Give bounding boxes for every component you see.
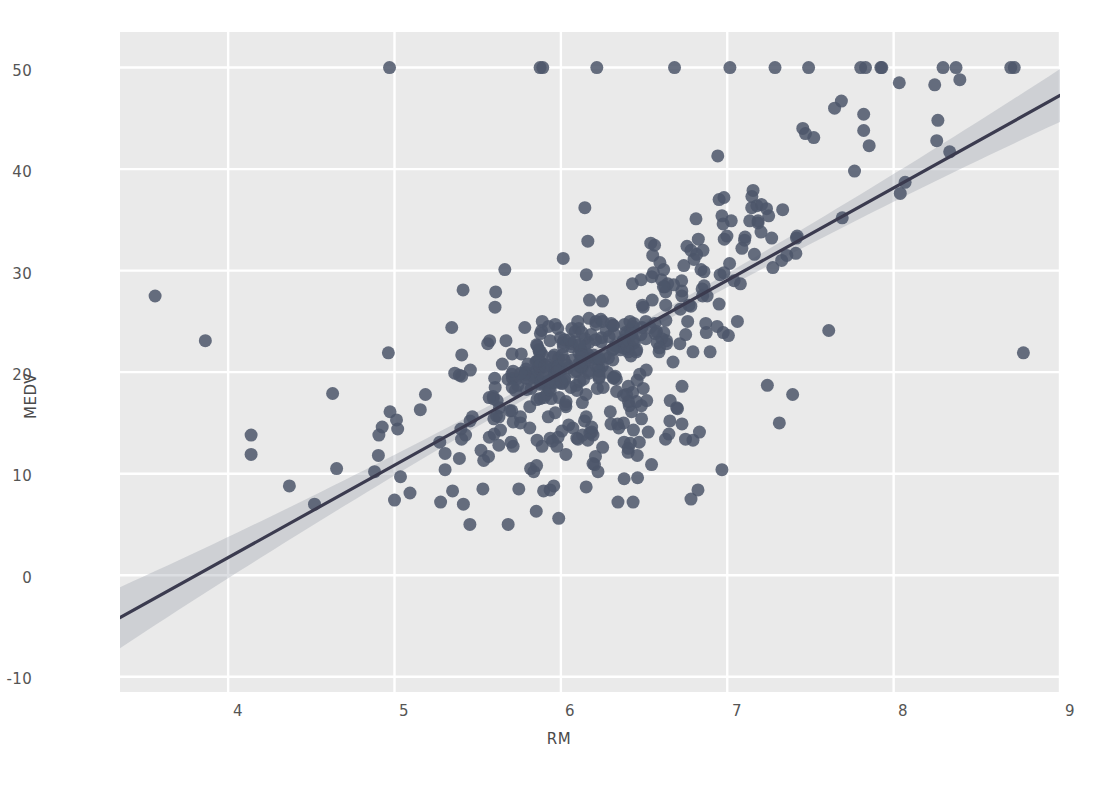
scatter-plot-canvas [120, 32, 1060, 692]
x-tick-label: 8 [873, 702, 933, 720]
x-tick-label: 6 [540, 702, 600, 720]
plot-area [120, 32, 1060, 692]
x-tick-label: 5 [374, 702, 434, 720]
x-tick-label: 4 [208, 702, 268, 720]
y-axis-title: MEDV [18, 0, 44, 792]
x-tick-label: 9 [1040, 702, 1100, 720]
regression-line [120, 95, 1060, 617]
figure: 50 40 30 20 10 0 -10 4 5 6 7 8 9 RM MEDV [0, 0, 1118, 792]
x-axis-title: RM [0, 730, 1118, 748]
scatter-points [149, 61, 1030, 531]
y-axis-title-text: MEDV [22, 373, 40, 419]
x-tick-label: 7 [707, 702, 767, 720]
